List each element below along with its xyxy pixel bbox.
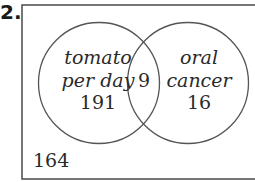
- set-label-line: oral: [180, 46, 218, 68]
- set-label-line: cancer: [166, 69, 233, 91]
- venn-diagram: tomato per day 191 9 oral cancer 16 164: [0, 0, 255, 182]
- region-count-intersection: 9: [138, 69, 150, 91]
- region-count-outside: 164: [33, 149, 69, 171]
- set-label-line: per day: [62, 69, 135, 91]
- region-count-tomato-only: 191: [80, 91, 116, 113]
- region-count-oral-cancer-only: 16: [187, 91, 211, 113]
- set-label-line: tomato: [64, 46, 132, 68]
